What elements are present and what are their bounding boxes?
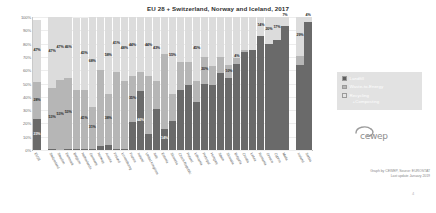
bar-segment-wte: [185, 62, 192, 85]
bar-value-label: 4%: [306, 14, 311, 18]
bar-segment-landfill: [225, 78, 232, 150]
legend-item[interactable]: Landfill: [342, 76, 417, 82]
bar-segment-landfill: [105, 145, 112, 150]
legend-label: Waste-to-Energy: [350, 84, 384, 90]
bar-column[interactable]: 45%: [193, 17, 201, 150]
bar-column[interactable]: 4%: [233, 17, 241, 150]
plot-area: 47%28%23%47%53%47%53%46%53%43%41%68%31%5…: [33, 17, 312, 150]
bar-value-label: 53%: [65, 112, 72, 116]
bar-segment-wte: [153, 81, 160, 109]
bar-column[interactable]: 43%: [152, 17, 160, 150]
bar-column[interactable]: 10%: [225, 17, 233, 150]
bar-column[interactable]: 48%: [120, 17, 128, 150]
bar-column[interactable]: [177, 17, 185, 150]
x-label-slot: Spain: [217, 151, 225, 211]
bar-column[interactable]: 43%41%: [80, 17, 88, 150]
bar-column[interactable]: 47%53%: [56, 17, 64, 150]
x-label-slot: Sweden: [56, 151, 64, 211]
bar-column[interactable]: 4%: [304, 17, 312, 150]
y-axis-tick: 50%: [23, 81, 31, 86]
bar-segment-landfill: [48, 149, 55, 150]
bar-column[interactable]: 46%53%: [64, 17, 72, 150]
legend-swatch-icon: [342, 76, 347, 81]
y-axis-tick: 90%: [23, 28, 31, 33]
bar-segment-landfill: [145, 134, 152, 150]
bar-value-label: 28%: [34, 99, 41, 103]
chart-container: EU 28 + Switzerland, Norway and Iceland,…: [0, 0, 436, 213]
bar-column[interactable]: [96, 17, 104, 150]
bar-segment-recycling: 44%: [129, 17, 136, 76]
bar-segment-wte: 10%: [225, 65, 232, 78]
bar-segment-recycling: 43%: [153, 17, 160, 81]
group-spacer-label: [41, 151, 48, 211]
bar-segment-recycling: 48%: [121, 17, 128, 81]
bar-column[interactable]: [217, 17, 225, 150]
bar-segment-recycling: 41%: [113, 17, 120, 72]
bar-column[interactable]: 17%: [273, 17, 281, 150]
bar-column[interactable]: 14%: [257, 17, 265, 150]
bar-column[interactable]: 44%35%: [128, 17, 136, 150]
bar-column[interactable]: 20%: [265, 17, 273, 150]
group-spacer-label: [289, 151, 296, 211]
y-axis-tick: 30%: [23, 108, 31, 113]
bar-segment-recycling: 17%: [273, 17, 280, 40]
bar-segment-wte: [113, 72, 120, 149]
x-label-slot: Cyprus: [273, 151, 281, 211]
bar-column[interactable]: 29%: [296, 17, 304, 150]
x-label-slot: France: [128, 151, 136, 211]
y-axis-tick: 40%: [23, 94, 31, 99]
bar-segment-wte: [121, 81, 128, 149]
legend-label: Landfill: [350, 76, 364, 82]
bar-segment-recycling: 55%: [169, 17, 176, 94]
bar-column[interactable]: 41%: [112, 17, 120, 150]
bar-value-label: 48%: [121, 47, 128, 51]
chart-credit: Graph by CEWEP, Source: EUROSTAT Last up…: [330, 169, 430, 180]
bar-segment-recycling: [209, 17, 216, 66]
y-axis: 0%10%20%30%40%50%60%70%80%90%100%: [0, 17, 33, 150]
bar-column[interactable]: 7%: [281, 17, 289, 150]
group-spacer: [289, 17, 296, 150]
x-label-slot: Denmark: [64, 151, 72, 211]
bar-column[interactable]: 44%: [144, 17, 152, 150]
bar-column[interactable]: [72, 17, 80, 150]
bar-segment-wte: 53%: [64, 78, 71, 148]
bar-column[interactable]: 47%28%23%: [33, 17, 41, 150]
bar-value-label: 4%: [234, 55, 239, 59]
bar-value-label: 10%: [225, 70, 232, 74]
bar-column[interactable]: [185, 17, 193, 150]
x-label-slot: EU28: [33, 151, 41, 211]
x-label-slot: Iceland: [296, 151, 304, 211]
bar-value-label: 45%: [193, 47, 200, 51]
bar-segment-recycling: 46%: [64, 17, 71, 78]
legend-item[interactable]: Recycling+Composting: [342, 93, 417, 105]
bar-value-label: 55%: [169, 54, 176, 58]
bar-column[interactable]: [209, 17, 217, 150]
bar-segment-landfill: [121, 149, 128, 150]
bar-column[interactable]: 20%: [201, 17, 209, 150]
bar-column[interactable]: 44%: [136, 17, 144, 150]
bar-segment-landfill: [64, 149, 71, 150]
bar-segment-landfill: [304, 22, 311, 150]
bar-value-label: 14%: [161, 138, 168, 142]
legend-item[interactable]: Waste-to-Energy: [342, 84, 417, 90]
bar-column[interactable]: 47%53%: [48, 17, 56, 150]
x-label-slot: United Kingdom: [144, 151, 152, 211]
bar-column[interactable]: 14%: [160, 17, 168, 150]
x-label-slot: Latvia: [249, 151, 257, 211]
bar-segment-recycling: 43%: [81, 18, 88, 90]
x-label-slot: Ireland: [136, 151, 144, 211]
bar-column[interactable]: [249, 17, 257, 150]
bar-column[interactable]: 68%31%: [88, 17, 96, 150]
bar-segment-recycling: 47%: [56, 17, 63, 80]
bar-segment-landfill: 44%: [137, 91, 144, 150]
bar-column[interactable]: 55%: [169, 17, 177, 150]
bar-segment-landfill: [217, 73, 224, 150]
bar-segment-landfill: [249, 50, 256, 150]
bar-segment-recycling: [249, 17, 256, 50]
page-number: 4: [412, 191, 414, 196]
bar-segment-recycling: [73, 18, 80, 90]
bar-column[interactable]: 58%38%: [104, 17, 112, 150]
bar-column[interactable]: [241, 17, 249, 150]
bar-value-label: 17%: [273, 26, 280, 30]
y-axis-tick: 100%: [21, 15, 31, 20]
